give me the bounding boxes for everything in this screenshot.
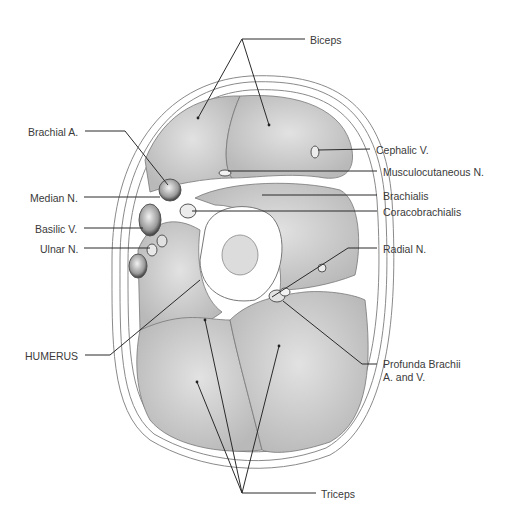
label-profunda-brachii-line1: Profunda Brachii (383, 358, 461, 370)
label-musculocutaneous-nerve: Musculocutaneous N. (383, 166, 484, 178)
label-ulnar-nerve: Ulnar N. (40, 243, 79, 255)
humerus-bone (200, 207, 282, 301)
label-brachial-artery: Brachial A. (28, 126, 78, 138)
label-coracobrachialis: Coracobrachialis (383, 206, 461, 218)
label-humerus: HUMERUS (25, 350, 78, 362)
arm-cross-section-illustration (0, 0, 511, 527)
label-cephalic-vein: Cephalic V. (376, 144, 429, 156)
label-brachialis: Brachialis (383, 190, 429, 202)
label-triceps: Triceps (321, 488, 355, 500)
label-biceps: Biceps (310, 34, 342, 46)
label-basilic-vein: Basilic V. (35, 223, 77, 235)
label-profunda-brachii-line2: A. and V. (383, 371, 425, 383)
label-radial-nerve: Radial N. (383, 243, 426, 255)
label-median-nerve: Median N. (30, 192, 78, 204)
